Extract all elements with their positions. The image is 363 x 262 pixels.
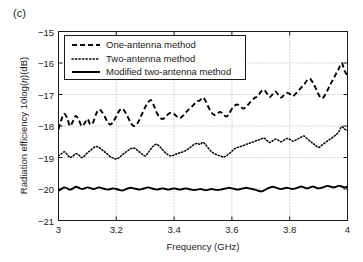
figure-panel-c: (c) Radiation efficiency 10log(η)(dB) −1… — [0, 0, 363, 262]
legend-label-two-antenna: Two-antenna method — [106, 54, 195, 64]
legend-item-two-antenna: Two-antenna method — [71, 52, 195, 66]
legend-label-one-antenna: One-antenna method — [106, 40, 196, 50]
legend-label-modified: Modified two-antenna method — [106, 67, 231, 77]
legend-sample-dashed — [71, 40, 101, 50]
x-tick-label: 4 — [345, 224, 350, 235]
x-tick-label: 3.4 — [167, 224, 180, 235]
legend-item-modified-two-antenna: Modified two-antenna method — [71, 65, 231, 79]
legend-sample-solid — [71, 67, 101, 77]
x-tick-label: 3.6 — [225, 224, 238, 235]
data-curves — [59, 63, 348, 192]
legend: One-antenna method Two-antenna method Mo… — [64, 35, 246, 80]
x-tick-label: 3 — [56, 224, 61, 235]
legend-item-one-antenna: One-antenna method — [71, 38, 196, 52]
x-tick-label: 3.2 — [110, 224, 123, 235]
x-tick-label: 3.8 — [283, 224, 296, 235]
legend-sample-dotted — [71, 54, 101, 64]
data-curve-dotted — [59, 127, 348, 160]
data-curve-solid — [59, 186, 348, 192]
